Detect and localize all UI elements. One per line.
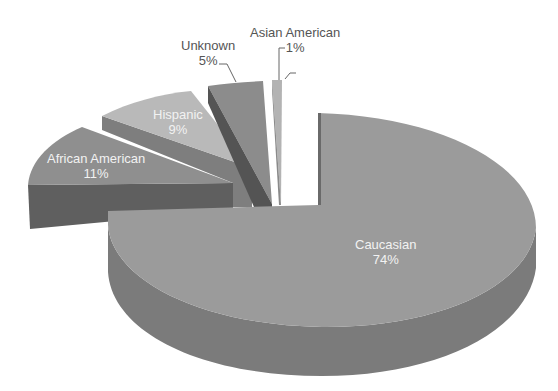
label-african-american-name: African American — [47, 151, 145, 166]
label-asian-american-name: Asian American — [250, 25, 340, 40]
slice-asian-american — [272, 80, 282, 205]
label-caucasian-pct: 74% — [355, 252, 416, 267]
label-caucasian: Caucasian 74% — [355, 237, 416, 267]
label-african-american: African American 11% — [47, 151, 145, 181]
label-african-american-pct: 11% — [47, 166, 145, 181]
label-hispanic-pct: 9% — [153, 122, 203, 137]
slice-asian-american-top — [272, 80, 282, 205]
label-unknown: Unknown 5% — [181, 38, 235, 68]
label-asian-american: Asian American 1% — [250, 25, 340, 55]
slice-caucasian-cut-edge — [318, 113, 321, 205]
label-unknown-name: Unknown — [181, 38, 235, 53]
leader-line-other — [285, 73, 296, 79]
label-unknown-pct: 5% — [181, 53, 235, 68]
label-hispanic-name: Hispanic — [153, 107, 203, 122]
pie-chart — [0, 0, 558, 391]
label-hispanic: Hispanic 9% — [153, 107, 203, 137]
label-asian-american-pct: 1% — [250, 40, 340, 55]
label-caucasian-name: Caucasian — [355, 237, 416, 252]
